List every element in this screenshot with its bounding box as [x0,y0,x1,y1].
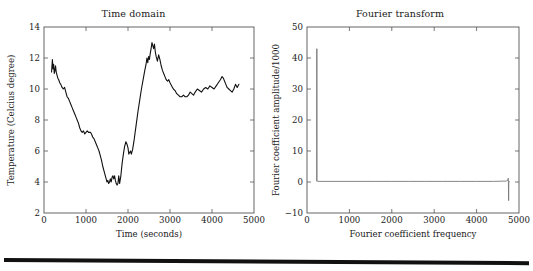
x-axis-label: Time (seconds) [116,229,182,239]
fourier-transform-plot-svg: 010002000300040005000−1001020304050Fouri… [267,0,533,250]
y-tick-label: −10 [285,208,303,218]
y-tick-label: 30 [292,84,303,94]
y-tick-label: 10 [29,84,40,94]
y-tick-label: 8 [35,115,40,125]
x-tick-label: 2000 [381,215,403,225]
x-tick-label: 0 [304,215,309,225]
y-tick-label: 20 [292,115,303,125]
x-tick-label: 4000 [466,215,488,225]
x-tick-label: 0 [41,215,46,225]
x-axis-label: Fourier coefficient frequency [350,229,477,239]
x-tick-label: 2000 [117,215,139,225]
y-axis-label: Temperature (Celcius degree) [6,55,16,186]
fourier-transform-data-line [317,49,510,201]
x-tick-label: 1000 [338,215,360,225]
x-tick-label: 1000 [75,215,97,225]
time-domain-plot-svg: 0100020003000400050002468101214Time (sec… [0,0,267,250]
y-tick-label: 12 [29,53,40,63]
y-tick-label: 2 [35,208,40,218]
y-tick-label: 14 [29,22,40,32]
x-tick-label: 3000 [423,215,445,225]
y-tick-label: 40 [292,53,303,63]
y-tick-label: 6 [35,146,40,156]
time-domain-data-line [52,43,239,186]
x-tick-label: 3000 [159,215,181,225]
y-tick-label: 4 [35,177,41,187]
y-tick-label: 0 [298,177,303,187]
x-tick-label: 5000 [508,215,530,225]
page-bottom-rule [4,258,529,265]
y-axis-label: Fourier coefficient amplitude/1000 [271,44,281,196]
chart-panel-fourier-transform: Fourier transform 010002000300040005000−… [267,0,533,250]
y-tick-label: 50 [292,22,303,32]
x-tick-label: 5000 [243,215,265,225]
figure-page: Time domain 0100020003000400050002468101… [0,0,533,271]
chart-panel-time-domain: Time domain 0100020003000400050002468101… [0,0,267,250]
y-tick-label: 10 [292,146,303,156]
x-tick-label: 4000 [201,215,223,225]
